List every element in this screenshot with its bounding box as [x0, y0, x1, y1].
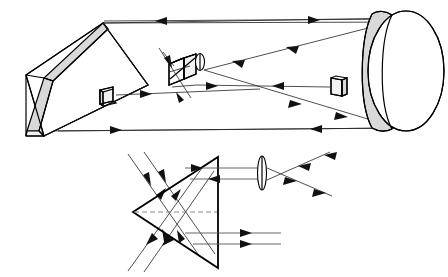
collimating-lens — [196, 54, 205, 71]
large-circular-mirror — [362, 11, 444, 131]
focusing-lens — [258, 156, 267, 190]
optical-diagram-canvas — [0, 0, 448, 277]
optical-diagram-figure — [0, 0, 448, 277]
fold-mirror-right — [331, 76, 347, 96]
